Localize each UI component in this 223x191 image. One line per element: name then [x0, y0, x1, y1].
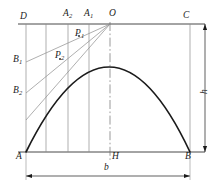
label-B2-sub: 2	[19, 89, 22, 96]
label-D: D	[20, 12, 27, 22]
parabola-curve	[26, 67, 190, 152]
label-A1: A1	[84, 9, 93, 19]
label-H: H	[112, 152, 119, 162]
label-dimension-b: b	[104, 163, 109, 173]
label-A1-text: A	[84, 8, 90, 18]
label-A-text: A	[16, 151, 22, 161]
label-A2-text: A	[63, 8, 69, 18]
label-C-text: C	[183, 10, 189, 20]
label-P2-text: P	[55, 50, 61, 60]
label-B1: B1	[13, 55, 22, 65]
label-A: A	[16, 152, 22, 162]
label-B: B	[185, 152, 191, 162]
label-O: O	[109, 9, 116, 19]
label-O-text: O	[109, 8, 116, 18]
arrowhead-width-right	[184, 174, 190, 178]
label-H-text: H	[112, 151, 119, 161]
label-A2: A2	[63, 9, 72, 19]
label-B1-text: B	[13, 54, 19, 64]
label-P1-text: P	[75, 28, 81, 38]
label-D-text: D	[20, 11, 27, 21]
parabola-geometry-figure: D A2 A1 O C P1 P2 B1 B2 A H B b h	[0, 0, 223, 191]
label-A1-sub: 1	[90, 12, 93, 19]
label-B1-sub: 1	[19, 58, 22, 65]
label-dimension-h: h	[200, 89, 210, 94]
label-P2: P2	[55, 51, 64, 61]
diagram-canvas	[0, 0, 223, 191]
label-A2-sub: 2	[69, 12, 72, 19]
label-P1-sub: 1	[81, 32, 84, 39]
label-P1: P1	[75, 29, 84, 39]
arrowhead-height-top	[203, 24, 207, 30]
label-B2: B2	[13, 86, 22, 96]
label-B-text: B	[185, 151, 191, 161]
label-h-text: h	[199, 89, 209, 94]
label-P2-sub: 2	[61, 54, 64, 61]
label-C: C	[183, 11, 189, 21]
arrowhead-height-bottom	[203, 146, 207, 152]
arrowhead-width-left	[26, 174, 32, 178]
label-b-text: b	[104, 162, 109, 172]
label-B2-text: B	[13, 85, 19, 95]
